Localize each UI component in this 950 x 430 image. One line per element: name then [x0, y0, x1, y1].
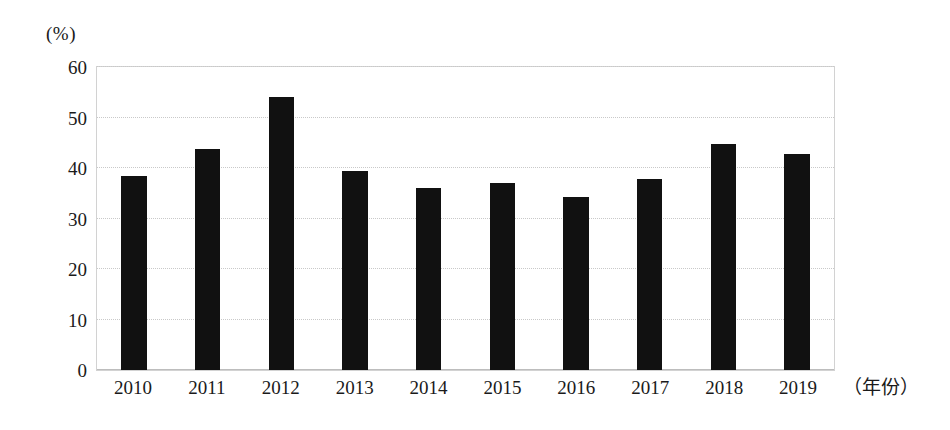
y-tick-label-30: 30	[68, 209, 87, 228]
bar-2013	[342, 171, 367, 370]
x-tick-label-2019: 2019	[779, 378, 817, 397]
bar-2018	[711, 144, 736, 370]
x-tick-label-2010: 2010	[114, 378, 152, 397]
bar-2016	[563, 197, 588, 370]
y-tick-label-60: 60	[68, 58, 87, 77]
x-axis-unit-label: （年份）	[843, 378, 919, 397]
bar-2010	[121, 176, 146, 370]
x-axis-labels: 2010201120122013201420152016201720182019	[96, 378, 835, 408]
x-tick-label-2017: 2017	[631, 378, 669, 397]
y-tick-label-50: 50	[68, 108, 87, 127]
x-tick-label-2014: 2014	[410, 378, 448, 397]
bar-2014	[416, 188, 441, 370]
x-tick-label-2011: 2011	[188, 378, 225, 397]
bar-2015	[490, 183, 515, 370]
y-tick-label-40: 40	[68, 159, 87, 178]
x-tick-label-2018: 2018	[705, 378, 743, 397]
bar-2019	[784, 154, 809, 370]
x-tick-label-2016: 2016	[557, 378, 595, 397]
y-tick-label-0: 0	[78, 361, 88, 380]
bars-layer	[97, 67, 834, 370]
plot-area: 0102030405060	[96, 66, 835, 371]
bar-2017	[637, 179, 662, 370]
bar-2012	[269, 97, 294, 370]
bar-chart: (%) 0102030405060 2010201120122013201420…	[0, 0, 950, 430]
y-axis-unit-label: (%)	[46, 24, 76, 43]
bar-2011	[195, 149, 220, 370]
x-tick-label-2013: 2013	[336, 378, 374, 397]
x-tick-label-2015: 2015	[483, 378, 521, 397]
x-tick-label-2012: 2012	[262, 378, 300, 397]
y-tick-label-10: 10	[68, 310, 87, 329]
y-tick-label-20: 20	[68, 260, 87, 279]
